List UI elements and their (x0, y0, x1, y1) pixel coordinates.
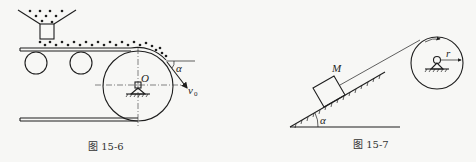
figure-15-6: O α v 0 图 15-6 (18, 10, 198, 152)
angle-arc (172, 61, 174, 68)
label-angle-alpha-incline: α (320, 114, 326, 126)
figure-canvas: O α v 0 图 15-6 (0, 0, 476, 162)
label-angle-alpha: α (176, 62, 182, 74)
idler-roller-2 (70, 52, 92, 74)
label-velocity-subscript: 0 (194, 90, 198, 98)
rope (340, 40, 420, 85)
caption-figure-15-6: 图 15-6 (88, 141, 124, 152)
belt-wrap (131, 47, 166, 60)
hopper (18, 10, 76, 39)
conveyor-belt-bottom (20, 118, 138, 121)
label-velocity: v (188, 84, 193, 96)
label-center-o: O (141, 72, 149, 84)
label-mass-m: M (331, 62, 342, 74)
block-m (313, 76, 345, 107)
figure-15-7: M α r 图 15-7 (290, 37, 463, 150)
conveyor-belt-top (20, 48, 131, 51)
caption-figure-15-7: 图 15-7 (353, 139, 389, 150)
idler-roller-1 (25, 52, 47, 74)
label-radius-r: r (446, 47, 451, 59)
angle-arc-incline (315, 113, 318, 127)
